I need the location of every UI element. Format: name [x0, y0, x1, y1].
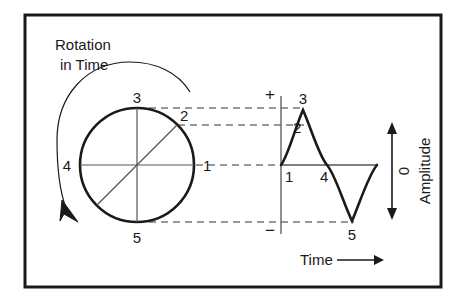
wave-label-4: 4 [320, 168, 328, 185]
amplitude-zero-label: 0 [395, 167, 412, 175]
y-axis-label: Amplitude [416, 138, 433, 205]
wave-label-3: 3 [299, 90, 307, 107]
wave-axis-minus-label: − [265, 221, 275, 240]
title-line-1: Rotation [55, 36, 111, 53]
circle-label-1: 1 [203, 157, 211, 174]
circle-label-5: 5 [133, 229, 141, 246]
wave-label-5: 5 [348, 226, 356, 243]
figure-container: 1 2 3 4 5 Rotation in Time + − 1 2 3 4 5… [0, 0, 465, 297]
title-line-2: in Time [60, 56, 108, 73]
circle-label-4: 4 [63, 157, 71, 174]
wave-label-2: 2 [293, 119, 301, 136]
circle-label-2: 2 [180, 107, 188, 124]
wave-label-1: 1 [285, 168, 293, 185]
circle-label-3: 3 [133, 89, 141, 106]
diagram-svg: 1 2 3 4 5 Rotation in Time + − 1 2 3 4 5… [0, 0, 465, 297]
wave-axis-plus-label: + [265, 85, 275, 104]
x-axis-label: Time [300, 251, 333, 268]
